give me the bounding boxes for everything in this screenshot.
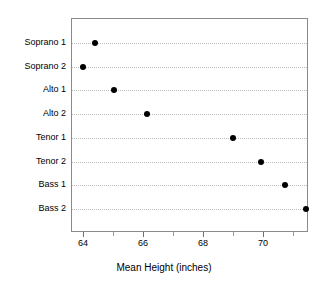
x-axis-tick-major	[203, 232, 204, 237]
gridline-row	[72, 209, 307, 210]
gridline-row	[72, 43, 307, 44]
x-axis-tick-label: 66	[138, 238, 148, 249]
dot-plot-chart: Soprano 1Soprano 2Alto 1Alto 2Tenor 1Ten…	[0, 0, 328, 294]
data-point	[144, 111, 150, 117]
gridline-row	[72, 67, 307, 68]
data-point	[282, 182, 288, 188]
gridline-row	[72, 185, 307, 186]
gridline-row	[72, 162, 307, 163]
data-point	[258, 159, 264, 165]
x-axis-tick-label: 64	[78, 238, 88, 249]
x-axis-tick-minor	[173, 232, 174, 236]
gridline-row	[72, 114, 307, 115]
y-axis-label-group: Soprano 1Soprano 2Alto 1Alto 2Tenor 1Ten…	[0, 0, 66, 294]
x-axis-tick-major	[263, 232, 264, 237]
data-point	[303, 206, 309, 212]
y-axis-tick-label: Tenor 2	[36, 156, 66, 166]
x-axis-tick-label: 68	[198, 238, 208, 249]
x-axis-tick-major	[83, 232, 84, 237]
x-axis-title: Mean Height (inches)	[0, 262, 328, 273]
y-axis-tick-label: Bass 2	[38, 203, 66, 213]
data-point	[92, 40, 98, 46]
x-axis-tick-minor	[233, 232, 234, 236]
x-axis-tick-minor	[293, 232, 294, 236]
gridline-row	[72, 90, 307, 91]
y-axis-tick-label: Tenor 1	[36, 132, 66, 142]
plot-area	[71, 18, 308, 232]
y-axis-tick-label: Alto 1	[43, 84, 66, 94]
data-point	[111, 87, 117, 93]
data-point	[230, 135, 236, 141]
gridline-row	[72, 138, 307, 139]
y-axis-tick-label: Bass 1	[38, 179, 66, 189]
x-axis-tick-major	[143, 232, 144, 237]
x-axis-tick-minor	[113, 232, 114, 236]
y-axis-tick-label: Soprano 1	[24, 37, 66, 47]
data-point	[80, 64, 86, 70]
y-axis-tick-label: Soprano 2	[24, 61, 66, 71]
x-axis-tick-label: 70	[258, 238, 268, 249]
y-axis-tick-label: Alto 2	[43, 108, 66, 118]
